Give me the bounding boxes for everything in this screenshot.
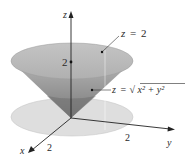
y-tick-label: 2 xyxy=(125,132,130,143)
plane-annotation-rhs: 2 xyxy=(141,27,147,39)
plane-z-equals-2-cap xyxy=(11,43,133,79)
z-axis-label: z xyxy=(62,9,67,20)
x-tick-label: 2 xyxy=(47,142,52,153)
plane-annotation-lhs: z xyxy=(120,27,126,39)
x-axis-arrow-icon xyxy=(28,146,35,153)
cone-annotation-lhs: z xyxy=(111,84,116,95)
x-axis-label: x xyxy=(19,145,25,156)
z-tick-point xyxy=(70,61,73,64)
z-axis-arrow-icon xyxy=(69,11,74,18)
sqrt-icon: √ xyxy=(130,84,136,95)
cone-annotation-eq: = xyxy=(120,84,126,95)
y-axis-arrow-icon xyxy=(168,127,176,132)
z-tick-label: 2 xyxy=(62,56,68,68)
cone-label-point xyxy=(91,89,93,91)
cone-diagram: z y x 2 2 2 z = 2 z = √ x² + y² xyxy=(0,0,188,158)
cone-annotation: z = √ x² + y² xyxy=(111,84,165,95)
plane-label-point xyxy=(101,51,103,53)
plane-annotation: z = 2 xyxy=(120,27,147,39)
plane-annotation-eq: = xyxy=(130,27,136,39)
y-axis-label: y xyxy=(166,137,172,148)
cone-annotation-radicand: x² + y² xyxy=(137,84,166,95)
